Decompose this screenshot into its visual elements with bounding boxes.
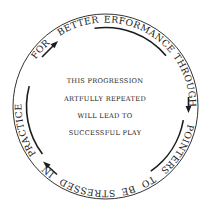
word-through: THROUGH <box>171 51 198 107</box>
word-better: BETTER <box>55 14 100 38</box>
center-line-1: THIS PROGRESSION <box>67 77 144 85</box>
word-pointers: POINTERS <box>159 123 196 176</box>
center-message: THIS PROGRESSION ARTFULLY REPEATED WILL … <box>63 77 146 137</box>
center-line-3: WILL LEAD TO <box>78 112 133 120</box>
center-line-2: ARTFULLY REPEATED <box>63 95 146 103</box>
word-performance: PERFORMANCE <box>0 0 178 55</box>
word-be: BE <box>120 184 137 198</box>
word-stressed: STRESSED <box>57 176 116 199</box>
center-line-4: SUCCESSFUL PLAY <box>69 129 142 137</box>
word-to: TO <box>140 174 158 191</box>
progression-diagram: FOR BETTER PERFORMANCE THROUGH POINTERS … <box>0 0 207 212</box>
word-practice: PRACTICE <box>12 103 37 158</box>
word-for: FOR <box>28 36 52 61</box>
